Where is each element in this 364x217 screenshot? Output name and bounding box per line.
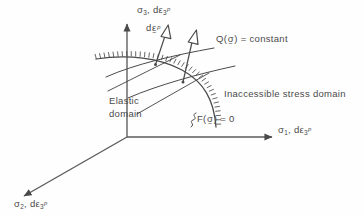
strain-tilde-underline: ~ [152,30,158,37]
plastic-potential-curves [106,48,235,98]
sigma-3-epsilon-superscript: p [167,6,171,12]
yield-tilde-underline: ~ [207,121,214,128]
axis-group [24,24,272,196]
strain-epsilon-tensor: ε~ [152,22,158,33]
strain-arrow-1-shaft [156,35,166,65]
sigma-2-axis-line [24,137,127,196]
yield-function-label: F(σ~) = 0 [197,113,235,124]
yield-equals-zero: ) = 0 [214,113,235,124]
contact-point-2 [182,81,185,84]
sigma-2-epsilon-superscript: p [44,200,48,206]
plastic-potential-label: Q(σ~) = constant [216,33,288,44]
sigma-1-epsilon-superscript: p [308,126,312,132]
tangent-line-2 [137,73,209,114]
potential-sigma-tensor: σ~ [227,33,234,44]
sigma-3-comma: , d [147,4,158,15]
plastic-strain-increment-label: dε~p [146,22,161,33]
elastic-domain-label: Elastic domain [109,94,142,120]
yield-label-leader [191,113,196,127]
diagram-canvas [0,0,364,217]
sigma-1-axis-label: σ1, dε3p [278,124,312,136]
strain-superscript-p: p [157,24,161,30]
yield-sigma-tensor: σ~ [207,113,214,124]
elastic-domain-line-1: Elastic [109,94,142,107]
sigma-2-comma: , d [24,198,35,209]
tangent-line-1 [108,55,180,91]
contact-point-1 [154,63,157,66]
elastic-domain-line-2: domain [109,107,142,120]
strain-arrow-1-head [161,25,171,39]
potential-function-name: Q( [216,33,227,44]
stress-space-diagram: σ3, dε3p σ1, dε3p σ2, dε3p dε~p Q(σ~) = … [0,0,364,217]
potential-equals-constant: ) = constant [234,33,288,44]
sigma-1-comma: , d [288,124,299,135]
sigma-2-axis-label: σ2, dε3p [14,198,48,210]
inaccessible-domain-label: Inaccessible stress domain [224,88,346,100]
strain-increment-arrows [156,25,199,82]
sigma-3-axis-label: σ3, dε3p [137,4,171,16]
strain-arrow-2-head [188,30,198,44]
potential-tilde-underline: ~ [227,41,234,48]
yield-function-name: F( [197,113,207,124]
